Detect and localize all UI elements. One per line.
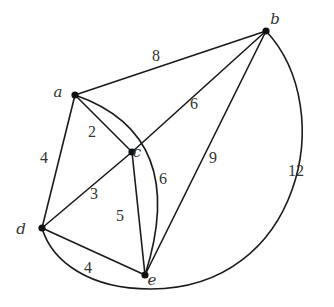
node-a — [71, 91, 78, 98]
node-label-b: b — [270, 10, 280, 28]
edge-b-d — [42, 31, 302, 289]
node-label-d: d — [16, 220, 26, 238]
edge-weight-c-e: 5 — [116, 207, 124, 224]
edge-a-c — [75, 95, 132, 152]
nodes-layer: abcde — [16, 10, 280, 289]
node-label-c: c — [133, 143, 142, 161]
edge-weight-a-d: 4 — [40, 149, 48, 166]
edge-weight-labels: 82466359412 — [40, 47, 304, 276]
edges-layer — [42, 31, 302, 289]
node-d — [38, 224, 45, 231]
node-label-a: a — [54, 83, 63, 101]
edge-b-e — [145, 31, 266, 275]
edge-weight-c-b: 6 — [190, 95, 198, 112]
edge-weight-a-b: 8 — [152, 47, 160, 64]
node-b — [262, 27, 269, 34]
edge-c-e — [132, 152, 145, 275]
node-label-e: e — [148, 271, 157, 289]
edge-a-b — [75, 31, 266, 95]
edge-weight-c-d: 3 — [90, 185, 98, 202]
edge-d-e — [42, 228, 145, 275]
edge-weight-a-c: 2 — [88, 123, 96, 140]
edge-weight-b-e: 9 — [209, 149, 217, 166]
weighted-graph-diagram: 82466359412 abcde — [0, 0, 334, 307]
edge-weight-b-d: 12 — [288, 162, 304, 179]
edge-weight-d-e: 4 — [84, 259, 92, 276]
edge-weight-a-e: 6 — [159, 170, 167, 187]
